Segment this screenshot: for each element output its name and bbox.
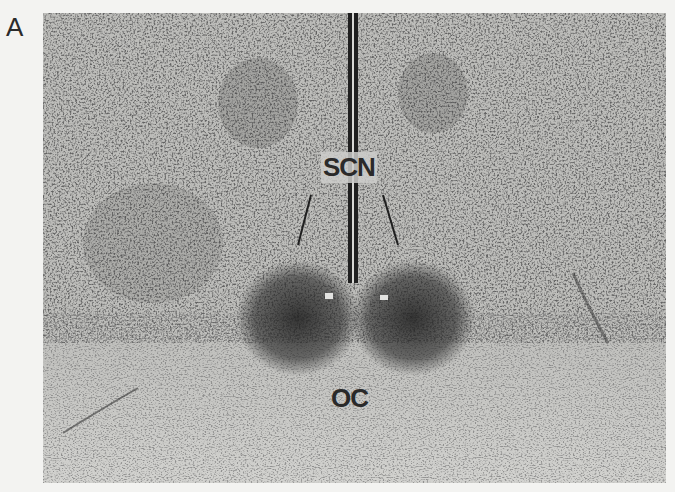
scn-label: SCN [321,152,377,183]
scn-right-nucleus [351,260,475,376]
micrograph-image: SCN OC [43,13,666,483]
panel-letter: A [6,12,23,43]
scn-left-nucleus [236,260,360,376]
oc-label: OC [331,383,368,414]
